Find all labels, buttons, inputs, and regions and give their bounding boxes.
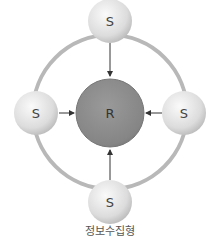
diagram-caption: 정보수집형 (0, 222, 219, 238)
node-s-bottom-label: S (88, 181, 132, 223)
node-s-left-label: S (14, 92, 58, 134)
node-s-right-label: S (162, 92, 206, 134)
node-s-top-label: S (88, 0, 132, 42)
center-node-label: R (76, 79, 144, 147)
